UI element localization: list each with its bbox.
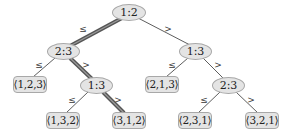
decision-tree-diagram: 1:22:31:3⟨1,2,3⟩1:3⟨2,1,3⟩2:3⟨1,3,2⟩⟨3,1… xyxy=(0,0,293,136)
node-label: ⟨1,2,3⟩ xyxy=(14,79,47,90)
edge-label: ≤ xyxy=(79,25,87,34)
edge-label: > xyxy=(164,25,172,34)
edge-root-to-n23_left xyxy=(70,18,122,46)
comparison-node-n13_right: 1:3 xyxy=(179,43,212,60)
edge-label: ≤ xyxy=(200,96,208,105)
node-label: ⟨3,1,2⟩ xyxy=(113,115,146,126)
node-label: ⟨3,2,1⟩ xyxy=(246,115,279,126)
node-label: 1:2 xyxy=(120,7,138,18)
leaf-node-leaf123: ⟨1,2,3⟩ xyxy=(13,76,47,93)
edge-label: ≤ xyxy=(68,96,76,105)
leaf-node-leaf312: ⟨3,1,2⟩ xyxy=(112,112,146,129)
comparison-node-n23_right: 2:3 xyxy=(212,77,245,94)
comparison-node-n13_mid: 1:3 xyxy=(80,77,113,94)
node-label: ⟨2,3,1⟩ xyxy=(179,115,212,126)
leaf-node-leaf132: ⟨1,3,2⟩ xyxy=(46,112,80,129)
edge-label: > xyxy=(247,96,255,105)
node-label: ⟨1,3,2⟩ xyxy=(47,115,80,126)
comparison-node-root: 1:2 xyxy=(112,4,146,21)
edge-label: ≤ xyxy=(35,61,43,70)
edge-label: > xyxy=(114,96,122,105)
node-label: 2:3 xyxy=(220,80,238,91)
edge-label: ≤ xyxy=(168,61,176,70)
edge-label: > xyxy=(82,61,90,70)
leaf-node-leaf231: ⟨2,3,1⟩ xyxy=(178,112,212,129)
leaf-node-leaf321: ⟨3,2,1⟩ xyxy=(245,112,279,129)
leaf-node-leaf213: ⟨2,1,3⟩ xyxy=(145,76,179,93)
node-label: ⟨2,1,3⟩ xyxy=(146,79,179,90)
comparison-node-n23_left: 2:3 xyxy=(47,43,80,60)
node-label: 1:3 xyxy=(187,46,205,57)
node-label: 1:3 xyxy=(88,80,106,91)
node-label: 2:3 xyxy=(55,46,73,57)
edge-label: > xyxy=(214,61,222,70)
